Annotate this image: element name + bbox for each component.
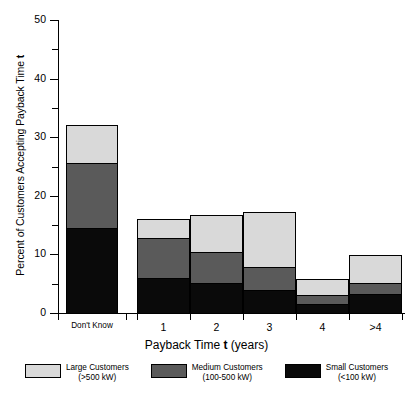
y-tick-label: 40 — [34, 72, 46, 84]
legend-swatch — [285, 364, 321, 378]
y-tick-minor — [52, 167, 58, 168]
x-axis-title-text: Payback Time — [145, 338, 224, 352]
bar-segment-small — [66, 228, 118, 314]
bar-segment-medium — [66, 163, 118, 229]
bar-segment-large — [296, 279, 349, 296]
legend-label-primary: Medium Customers — [192, 363, 263, 373]
bar-segment-medium — [349, 283, 402, 295]
y-tick-label: 10 — [34, 247, 46, 259]
legend-swatch — [151, 364, 187, 378]
y-axis-title: Percent of Customers Accepting Payback T… — [15, 15, 26, 315]
bar-segment-large — [243, 212, 296, 268]
y-tick-minor — [52, 225, 58, 226]
bar-segment-large — [66, 125, 118, 164]
bar-segment-small — [137, 278, 190, 314]
bar-segment-large — [190, 215, 243, 253]
legend-label: Small Customers(<100 kW) — [326, 363, 388, 384]
x-tick-label: Don't Know — [71, 321, 113, 330]
x-tick-label: >4 — [370, 321, 382, 333]
y-axis-title-variable: t — [14, 55, 26, 58]
bar-segment-small — [296, 304, 349, 314]
x-tick-label: 4 — [320, 321, 326, 333]
x-tick — [190, 313, 191, 320]
y-tick-major: 0 — [50, 313, 58, 314]
x-tick-label: 2 — [214, 321, 220, 333]
y-tick-label: 50 — [34, 13, 46, 25]
y-tick-minor — [52, 49, 58, 50]
y-tick-label: 0 — [40, 306, 46, 318]
legend-label-secondary: (100-500 kW) — [192, 373, 263, 383]
legend-swatch — [25, 364, 61, 378]
x-tick-label: 3 — [267, 321, 273, 333]
bar-segment-small — [243, 290, 296, 314]
legend-label: Medium Customers(100-500 kW) — [192, 363, 263, 384]
x-axis-title-units: (years) — [228, 338, 269, 352]
chart-figure: Percent of Customers Accepting Payback T… — [0, 0, 413, 398]
bar-segment-small — [349, 294, 402, 314]
chart-legend: Large Customers(>500 kW)Medium Customers… — [0, 363, 413, 384]
y-tick-minor — [52, 284, 58, 285]
plot-area: 01020304050 Don't Know1234>4 — [58, 20, 405, 313]
y-tick-major: 40 — [50, 79, 58, 80]
x-tick — [402, 313, 403, 320]
y-tick-minor — [52, 108, 58, 109]
legend-label-primary: Large Customers — [66, 363, 129, 373]
y-axis-line — [58, 20, 59, 314]
x-tick-label: 1 — [161, 321, 167, 333]
y-tick-major: 50 — [50, 20, 58, 21]
y-tick-major: 10 — [50, 254, 58, 255]
y-tick-major: 30 — [50, 137, 58, 138]
legend-label-secondary: (>500 kW) — [66, 373, 129, 383]
bar-segment-large — [349, 255, 402, 284]
y-tick-major: 20 — [50, 196, 58, 197]
x-tick — [243, 313, 244, 320]
legend-label: Large Customers(>500 kW) — [66, 363, 129, 384]
x-tick — [126, 313, 127, 320]
legend-label-primary: Small Customers — [326, 363, 388, 373]
bar-segment-large — [137, 219, 190, 239]
y-tick-label: 30 — [34, 130, 46, 142]
bar-segment-medium — [296, 295, 349, 305]
bar-segment-small — [190, 283, 243, 314]
bar-segment-medium — [243, 267, 296, 291]
legend-item: Small Customers(<100 kW) — [285, 363, 388, 384]
bar-segment-medium — [190, 252, 243, 284]
y-axis-title-text: Percent of Customers Accepting Payback T… — [14, 58, 26, 275]
legend-label-secondary: (<100 kW) — [326, 373, 388, 383]
y-tick-label: 20 — [34, 189, 46, 201]
legend-item: Large Customers(>500 kW) — [25, 363, 129, 384]
bar-segment-medium — [137, 238, 190, 279]
x-tick — [296, 313, 297, 320]
legend-item: Medium Customers(100-500 kW) — [151, 363, 263, 384]
x-tick — [349, 313, 350, 320]
x-axis-title: Payback Time t (years) — [0, 338, 413, 352]
x-tick — [137, 313, 138, 320]
x-tick — [58, 313, 59, 320]
